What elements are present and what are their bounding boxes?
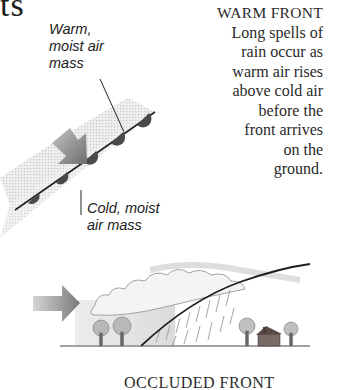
occluded-front-title: OCCLUDED FRONT bbox=[124, 374, 275, 390]
warm-front-cross-section bbox=[33, 264, 310, 346]
warm-front-map bbox=[0, 79, 155, 238]
weather-diagrams bbox=[0, 0, 337, 390]
house-icon bbox=[256, 326, 282, 346]
wind-direction-arrow-icon bbox=[33, 285, 80, 322]
